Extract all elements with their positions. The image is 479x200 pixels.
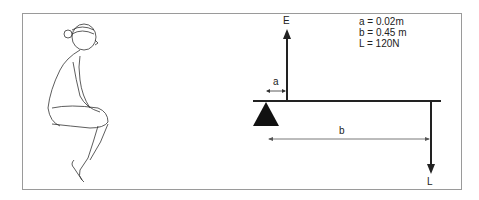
seated-figure-illustration <box>48 24 108 182</box>
given-values: a = 0.02m b = 0.45 m L = 120N <box>359 16 407 49</box>
load-arrow <box>427 164 435 174</box>
fulcrum-triangle <box>253 102 279 126</box>
dimension-b-label: b <box>339 126 345 136</box>
value-l: L = 120N <box>359 38 407 49</box>
dimension-a-label: a <box>273 77 279 87</box>
effort-arrow <box>283 29 291 39</box>
value-a: a = 0.02m <box>359 16 407 27</box>
lever-diagram <box>0 0 479 200</box>
value-b: b = 0.45 m <box>359 27 407 38</box>
load-label: L <box>427 177 433 187</box>
effort-label: E <box>283 16 290 26</box>
